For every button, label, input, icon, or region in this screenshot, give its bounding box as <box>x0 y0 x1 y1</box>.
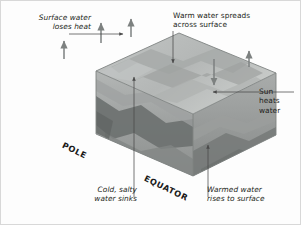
label-surface-water-loses-heat: Surface water loses heat <box>7 13 91 32</box>
label-sun-heats-water: Sun heats water <box>259 87 301 115</box>
label-warm-water-spreads-across-surface: Warm water spreads across surface <box>173 11 267 30</box>
label-cold-salty-water-sinks: Cold, salty water sinks <box>59 185 137 204</box>
label-warmed-water-rises-to-surface: Warmed water rises to surface <box>207 185 299 204</box>
diagram-canvas: Surface water loses heat Warm water spre… <box>0 0 301 225</box>
